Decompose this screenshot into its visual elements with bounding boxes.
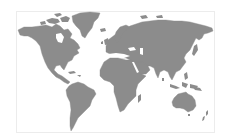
north-america <box>18 24 80 84</box>
world-map <box>0 0 231 140</box>
caribbean <box>68 71 81 77</box>
tasmania <box>188 114 190 116</box>
japan <box>192 44 198 56</box>
iceland <box>100 28 106 32</box>
greenland <box>72 12 100 38</box>
sri-lanka <box>162 78 164 81</box>
south-america <box>66 82 96 131</box>
new-zealand <box>202 110 208 121</box>
russian-arctic-islands <box>140 15 163 19</box>
arctic-islands <box>40 13 70 25</box>
british-isles <box>101 38 109 45</box>
caspian-sea <box>140 48 143 55</box>
australia <box>172 92 196 112</box>
madagascar <box>138 94 141 103</box>
